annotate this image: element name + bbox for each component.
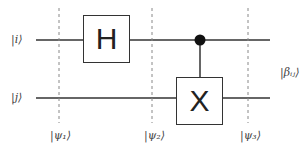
control-dot bbox=[195, 35, 206, 46]
state-label-psi3: |ψ₃⟩ bbox=[240, 129, 261, 142]
state-label-psi1: |ψ₁⟩ bbox=[50, 129, 71, 142]
hadamard-gate: H bbox=[83, 15, 130, 63]
gate-label: H bbox=[96, 22, 118, 56]
gate-label: X bbox=[189, 84, 209, 118]
state-label-psi2: |ψ₂⟩ bbox=[144, 129, 165, 142]
output-label-beta: |βᵢⱼ⟩ bbox=[280, 66, 299, 79]
cnot-target-gate: X bbox=[176, 77, 223, 125]
input-label-i: |i⟩ bbox=[11, 33, 23, 46]
input-label-j: |j⟩ bbox=[11, 91, 22, 104]
